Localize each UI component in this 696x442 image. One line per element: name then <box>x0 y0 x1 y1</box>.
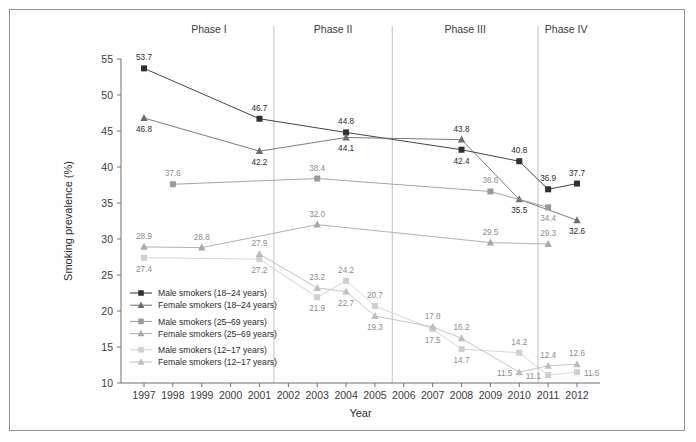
y-tick-label: 10 <box>101 377 113 389</box>
data-point-marker <box>459 147 465 153</box>
data-point-marker <box>140 114 147 121</box>
x-tick-label: 2012 <box>565 389 589 401</box>
phase-label-2: Phase II <box>314 23 353 35</box>
data-point-label: 43.8 <box>454 125 470 134</box>
data-point-label: 14.2 <box>511 338 527 347</box>
x-tick-label: 2007 <box>421 389 445 401</box>
x-tick-label: 2010 <box>508 389 532 401</box>
data-point-label: 38.4 <box>309 164 325 173</box>
data-point-marker <box>371 312 378 319</box>
x-tick-label: 2009 <box>479 389 503 401</box>
data-point-marker <box>138 330 145 336</box>
legend-label-4: Male smokers (12–17 years) <box>158 345 267 355</box>
x-tick-label: 2008 <box>450 389 474 401</box>
data-point-label: 29.3 <box>540 229 556 238</box>
y-tick-label: 20 <box>101 305 113 317</box>
y-tick-label: 40 <box>101 161 113 173</box>
data-point-label: 19.3 <box>367 323 383 332</box>
series-5: 27.923.222.719.317.816.211.512.412.6 <box>251 239 585 378</box>
data-point-label: 23.2 <box>309 273 325 282</box>
data-point-marker <box>170 181 176 187</box>
data-point-label: 11.1 <box>526 372 542 381</box>
series-0: 53.746.744.842.440.836.937.7 <box>136 53 585 192</box>
data-point-label: 11.5 <box>497 369 513 378</box>
data-point-label: 14.7 <box>454 356 470 365</box>
data-point-marker <box>138 347 144 353</box>
data-point-label: 53.7 <box>136 53 152 62</box>
data-point-label: 11.5 <box>584 369 600 378</box>
y-axis-title: Smoking prevalence (%) <box>62 161 74 281</box>
series-line <box>259 254 577 372</box>
data-point-marker <box>140 243 147 250</box>
data-point-marker <box>138 358 145 364</box>
data-point-label: 12.6 <box>569 349 585 358</box>
x-tick-label: 2000 <box>219 389 243 401</box>
data-point-marker <box>574 181 580 187</box>
chart-svg: Phase IPhase IIPhase IIIPhase IV10152025… <box>0 0 696 442</box>
data-point-label: 17.8 <box>425 312 441 321</box>
phase-label-3: Phase III <box>444 23 485 35</box>
legend-label-3: Female smokers (25–69 years) <box>158 329 277 339</box>
x-tick-label: 2003 <box>306 389 330 401</box>
x-tick-label: 2011 <box>537 389 560 401</box>
data-point-marker <box>343 278 349 284</box>
data-point-label: 12.4 <box>540 351 556 360</box>
data-point-marker <box>545 372 551 378</box>
y-tick-label: 35 <box>101 197 113 209</box>
data-point-marker <box>516 350 522 356</box>
data-point-label: 36.6 <box>482 176 498 185</box>
series-2: 37.638.436.634.4 <box>165 164 557 224</box>
data-point-marker <box>516 158 522 164</box>
data-point-label: 29.5 <box>482 228 498 237</box>
data-point-marker <box>545 204 551 210</box>
data-point-label: 32.0 <box>309 210 325 219</box>
data-point-marker <box>544 240 551 247</box>
y-tick-label: 30 <box>101 233 113 245</box>
phase-label-1: Phase I <box>191 23 227 35</box>
data-point-label: 42.4 <box>454 157 470 166</box>
data-point-label: 37.7 <box>569 169 585 178</box>
data-point-marker <box>458 136 465 143</box>
data-point-marker <box>314 221 321 228</box>
data-point-label: 40.8 <box>511 146 527 155</box>
data-point-label: 20.7 <box>367 291 383 300</box>
data-point-label: 21.9 <box>309 304 325 313</box>
series-line <box>144 68 577 189</box>
data-point-label: 28.8 <box>194 233 210 242</box>
data-point-marker <box>138 319 144 325</box>
data-point-marker <box>487 188 493 194</box>
x-tick-label: 1999 <box>190 389 214 401</box>
data-point-marker <box>545 186 551 192</box>
data-point-label: 17.5 <box>425 336 441 345</box>
data-point-label: 27.4 <box>136 265 152 274</box>
series-3: 28.928.832.029.529.3 <box>136 210 557 251</box>
data-point-label: 35.5 <box>511 206 527 215</box>
y-tick-label: 55 <box>101 53 113 65</box>
legend-label-5: Female smokers (12–17 years) <box>158 357 277 367</box>
data-point-marker <box>141 255 147 261</box>
x-axis-title: Year <box>349 407 372 419</box>
phase-label-4: Phase IV <box>545 23 588 35</box>
data-point-label: 28.9 <box>136 232 152 241</box>
data-point-marker <box>314 294 320 300</box>
x-tick-label: 2002 <box>277 389 301 401</box>
x-tick-label: 2004 <box>334 389 358 401</box>
data-point-marker <box>138 290 144 296</box>
data-point-label: 44.1 <box>338 144 354 153</box>
legend-label-2: Male smokers (25–69 years) <box>158 317 267 327</box>
data-point-marker <box>256 250 263 257</box>
data-point-marker <box>314 284 321 291</box>
data-point-label: 42.2 <box>251 158 267 167</box>
data-point-label: 22.7 <box>338 299 354 308</box>
x-tick-label: 2005 <box>363 389 387 401</box>
data-point-label: 27.9 <box>251 239 267 248</box>
x-tick-label: 2006 <box>392 389 416 401</box>
data-point-label: 16.2 <box>454 323 470 332</box>
y-tick-label: 15 <box>101 341 113 353</box>
data-point-label: 34.4 <box>540 214 556 223</box>
data-point-label: 46.7 <box>251 104 267 113</box>
data-point-label: 44.8 <box>338 117 354 126</box>
data-point-marker <box>573 360 580 367</box>
data-point-marker <box>141 65 147 71</box>
x-tick-label: 1998 <box>161 389 185 401</box>
